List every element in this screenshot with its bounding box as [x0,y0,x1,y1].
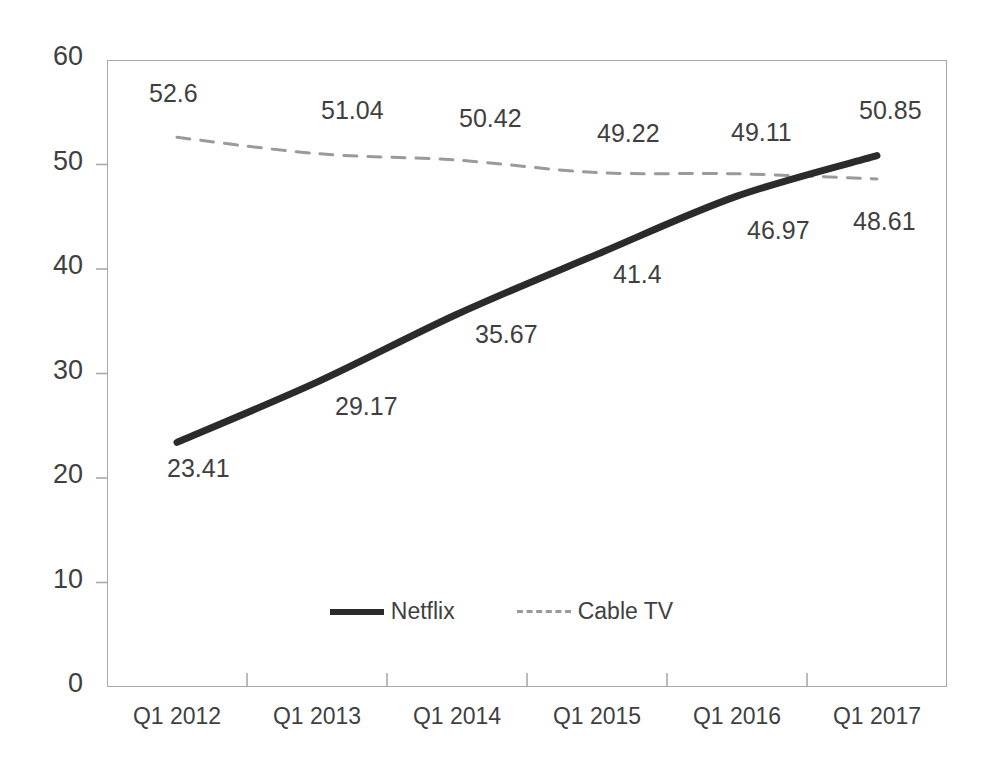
data-label-cable-tv: 52.6 [149,79,198,108]
legend-item-netflix[interactable]: Netflix [330,598,455,625]
y-axis-tick-label: 50 [0,146,83,177]
y-axis-tick-label: 40 [0,250,83,281]
data-label-netflix: 35.67 [475,320,538,349]
data-label-cable-tv: 49.22 [597,119,660,148]
y-axis-tick-label: 20 [0,459,83,490]
x-axis-tick-label: Q1 2015 [527,703,667,730]
y-axis-tick-label: 0 [0,668,83,699]
data-label-netflix: 29.17 [335,392,398,421]
data-label-cable-tv: 50.42 [459,104,522,133]
data-label-cable-tv: 49.11 [731,118,792,147]
legend-swatch-cable-tv [517,610,571,613]
data-label-cable-tv: 48.61 [853,207,916,236]
y-axis-tick-label: 10 [0,564,83,595]
chart-legend: Netflix Cable TV [0,598,1003,625]
line-chart: 0102030405060 Q1 2012Q1 2013Q1 2014Q1 20… [0,0,1003,771]
y-axis-tick-label: 30 [0,355,83,386]
x-axis-tick-label: Q1 2012 [107,703,247,730]
legend-swatch-netflix [330,609,384,615]
legend-label-cable-tv: Cable TV [578,598,673,625]
data-label-netflix: 50.85 [859,96,922,125]
y-axis-ticks [96,165,107,583]
legend-label-netflix: Netflix [391,598,455,625]
data-label-netflix: 46.97 [747,216,810,245]
x-axis-tick-label: Q1 2016 [667,703,807,730]
data-label-netflix: 41.4 [613,260,662,289]
x-axis-tick-label: Q1 2013 [247,703,387,730]
plot-area-frame [107,60,947,687]
x-axis-tick-label: Q1 2017 [807,703,947,730]
x-axis-tick-label: Q1 2014 [387,703,527,730]
y-axis-tick-label: 60 [0,41,83,72]
legend-item-cable-tv[interactable]: Cable TV [517,598,673,625]
data-label-cable-tv: 51.04 [321,96,384,125]
data-label-netflix: 23.41 [167,454,230,483]
